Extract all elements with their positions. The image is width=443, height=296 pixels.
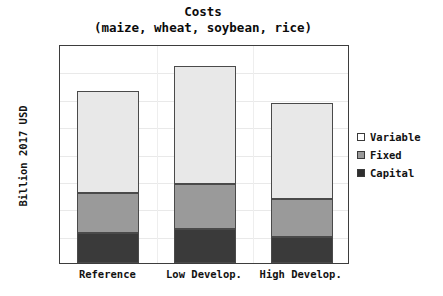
y-axis-title: Billion 2017 USD [17, 71, 29, 241]
legend-item[interactable]: Variable [357, 128, 441, 146]
legend-item[interactable]: Capital [357, 164, 441, 182]
bar-group[interactable] [77, 44, 139, 263]
x-axis-tick-labels: ReferenceLow Develop.High Develop. [59, 268, 349, 288]
bar-segment-variable[interactable] [271, 103, 333, 199]
legend-item[interactable]: Fixed [357, 146, 441, 164]
x-axis-tick-label: Low Develop. [156, 268, 253, 280]
chart-legend: VariableFixedCapital [357, 128, 441, 182]
chart-title: Costs [58, 4, 348, 20]
bar-segment-variable[interactable] [174, 66, 236, 184]
bar-segment-capital[interactable] [174, 229, 236, 263]
legend-label: Fixed [370, 149, 402, 161]
bar-segment-fixed[interactable] [174, 184, 236, 229]
legend-label: Capital [370, 167, 414, 179]
legend-swatch-fixed-icon [357, 151, 365, 159]
vertical-gridline [157, 46, 158, 263]
bar-group[interactable] [271, 44, 333, 263]
legend-label: Variable [370, 131, 421, 143]
plot-area [59, 45, 349, 264]
chart-subtitle: (maize, wheat, soybean, rice) [58, 20, 348, 36]
bar-segment-variable[interactable] [77, 91, 139, 193]
x-axis-tick-label: High Develop. [252, 268, 349, 280]
legend-swatch-variable-icon [357, 133, 365, 141]
bar-segment-capital[interactable] [77, 233, 139, 263]
bar-group[interactable] [174, 44, 236, 263]
vertical-gridline [253, 46, 254, 263]
bar-segment-fixed[interactable] [77, 193, 139, 233]
legend-swatch-capital-icon [357, 169, 365, 177]
chart-figure: Costs (maize, wheat, soybean, rice) 0501… [0, 0, 443, 296]
bar-segment-capital[interactable] [271, 237, 333, 263]
chart-title-block: Costs (maize, wheat, soybean, rice) [58, 4, 348, 36]
bar-segment-fixed[interactable] [271, 199, 333, 237]
x-axis-tick-label: Reference [59, 268, 156, 280]
